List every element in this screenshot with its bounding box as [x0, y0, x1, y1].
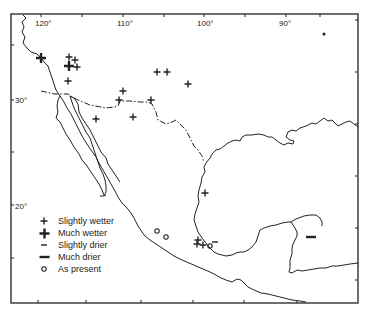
dot-marker: [323, 33, 326, 36]
slightly-wetter-marker: [185, 81, 192, 88]
map-legend: Slightly wetter Much wetter Slightly dri…: [36, 215, 126, 275]
much-wetter-marker: [64, 61, 74, 71]
slightly-wetter-marker: [202, 190, 209, 197]
small-plus-icon: [36, 217, 52, 225]
longitude-label-90: 90°: [279, 19, 291, 28]
gulf-of-california-east-coast: [70, 96, 120, 182]
slightly-wetter-marker: [164, 69, 171, 76]
slightly-wetter-marker: [65, 78, 72, 85]
legend-item-as-present: As present: [36, 263, 126, 275]
latitude-label-20: 20°: [15, 202, 27, 211]
legend-item-slightly-drier: Slightly drier: [36, 239, 126, 251]
longitude-label-110: 110°: [117, 19, 133, 28]
caribbean-coastline: [289, 263, 358, 273]
slightly-wetter-marker: [130, 114, 137, 121]
as-present-marker: [155, 229, 159, 233]
longitude-label-100: 100°: [197, 19, 214, 28]
small-dash-icon: [36, 241, 52, 249]
legend-label: As present: [58, 264, 101, 274]
legend-label: Slightly wetter: [58, 216, 114, 226]
as-present-marker: [164, 235, 168, 239]
slightly-wetter-marker: [195, 237, 202, 244]
circle-icon: [36, 265, 52, 273]
us-mexico-border: [41, 91, 204, 162]
legend-label: Much wetter: [58, 228, 107, 238]
slightly-wetter-marker: [148, 97, 155, 104]
legend-label: Slightly drier: [58, 240, 108, 250]
slightly-wetter-marker: [116, 97, 123, 104]
legend-item-much-drier: Much drier: [36, 251, 126, 263]
slightly-wetter-marker: [74, 64, 81, 71]
large-dash-icon: [36, 253, 52, 261]
legend-item-much-wetter: Much wetter: [36, 227, 126, 239]
gulf-of-mexico-coastline: [194, 118, 358, 272]
slightly-wetter-marker: [66, 54, 73, 61]
large-plus-icon: [36, 228, 52, 239]
slightly-wetter-marker: [194, 241, 201, 248]
slightly-wetter-marker: [93, 116, 100, 123]
yucatan-coastline: [291, 215, 322, 226]
legend-item-slightly-wetter: Slightly wetter: [36, 215, 126, 227]
latitude-label-30: 30°: [15, 96, 27, 105]
slightly-wetter-marker: [120, 88, 127, 95]
slightly-wetter-marker: [72, 57, 79, 64]
legend-label: Much drier: [58, 252, 101, 262]
slightly-wetter-marker: [154, 69, 161, 76]
longitude-label-120: 120°: [35, 19, 52, 28]
